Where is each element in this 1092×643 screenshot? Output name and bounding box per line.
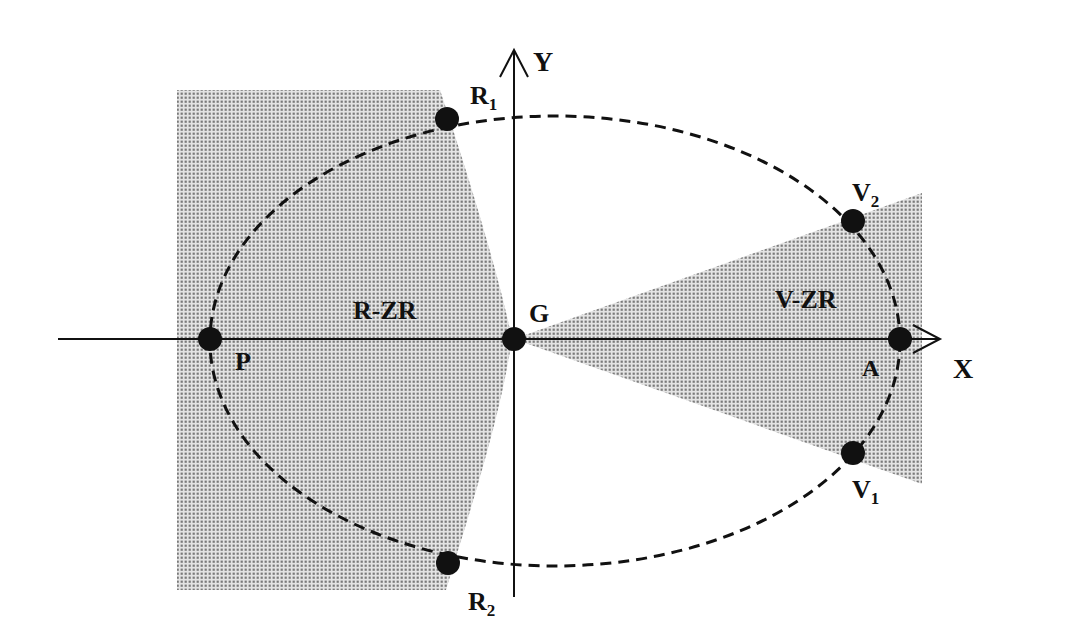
- label-a: A: [862, 355, 880, 381]
- label-p: P: [235, 347, 251, 376]
- point-v2: [841, 209, 865, 233]
- point-g: [502, 327, 526, 351]
- point-p: [198, 327, 222, 351]
- r-zr-label: R-ZR: [353, 296, 417, 325]
- label-v1-sub: 1: [871, 489, 880, 508]
- x-axis-label: X: [953, 353, 973, 384]
- label-v1-main: V: [852, 475, 871, 504]
- point-v1: [841, 441, 865, 465]
- label-g: G: [529, 299, 549, 328]
- label-v2-main: V: [852, 178, 871, 207]
- label-r1-main: R: [470, 81, 489, 110]
- point-a: [888, 327, 912, 351]
- point-r1: [435, 107, 459, 131]
- label-r2-sub: 2: [487, 601, 496, 620]
- label-v2: V2: [852, 178, 879, 211]
- ellipse-zones-diagram: X Y R-ZR V-ZR G P A R1 R2 V2 V1: [0, 0, 1092, 643]
- y-axis-label: Y: [533, 46, 553, 77]
- label-r1-sub: 1: [489, 95, 498, 114]
- label-r2-main: R: [468, 587, 487, 616]
- label-r2: R2: [468, 587, 495, 620]
- v-zr-label: V-ZR: [775, 285, 837, 314]
- label-v2-sub: 2: [871, 192, 880, 211]
- point-r2: [436, 551, 460, 575]
- label-v1: V1: [852, 475, 879, 508]
- label-r1: R1: [470, 81, 497, 114]
